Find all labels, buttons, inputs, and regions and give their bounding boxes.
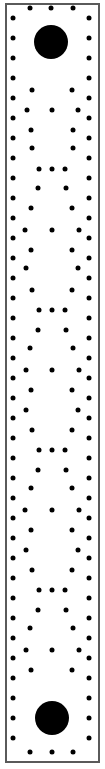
pellet: [50, 648, 55, 653]
pellet: [87, 416, 92, 421]
pellet: [11, 596, 16, 601]
pellet: [70, 428, 75, 433]
pellet: [87, 236, 92, 241]
pellet: [11, 696, 16, 701]
pellet: [29, 668, 34, 673]
power-pellet: [34, 25, 68, 59]
pellet: [71, 6, 76, 11]
pellet: [28, 346, 33, 351]
pellet: [77, 508, 82, 513]
pellet: [70, 248, 75, 253]
pellet: [87, 576, 92, 581]
pellet: [50, 750, 55, 755]
pellet: [87, 516, 92, 521]
pellet: [87, 536, 92, 541]
pellet: [87, 396, 92, 401]
pellet: [24, 408, 29, 413]
pellet: [11, 436, 16, 441]
pellet: [11, 676, 16, 681]
pellet: [28, 6, 33, 11]
pellet: [87, 56, 92, 61]
pellet: [37, 167, 42, 172]
pellet: [50, 368, 55, 373]
pellet: [28, 626, 33, 631]
pellet: [77, 228, 82, 233]
pellet: [11, 96, 16, 101]
pellet: [70, 388, 75, 393]
pellet: [76, 108, 81, 113]
pellet: [37, 308, 42, 313]
pellet: [87, 596, 92, 601]
pellet: [87, 176, 92, 181]
pellet: [30, 88, 35, 93]
pellet: [29, 128, 34, 133]
pellet: [76, 408, 81, 413]
pellet: [87, 616, 92, 621]
pellet: [87, 556, 92, 561]
pellet: [63, 167, 68, 172]
pellet: [28, 750, 33, 755]
pellet: [11, 56, 16, 61]
pellet: [11, 116, 16, 121]
pellet: [50, 508, 55, 513]
pellet: [11, 516, 16, 521]
pellet: [23, 228, 28, 233]
pellet: [11, 156, 16, 161]
pellet: [11, 196, 16, 201]
pellet: [11, 276, 16, 281]
pellet: [87, 716, 92, 721]
pellet: [30, 288, 35, 293]
pellet: [87, 216, 92, 221]
pellet: [70, 88, 75, 93]
pellet: [70, 486, 75, 491]
pellet: [11, 136, 16, 141]
pellet: [64, 608, 69, 613]
pellet: [11, 296, 16, 301]
pellet: [87, 356, 92, 361]
pellet: [63, 308, 68, 313]
pellet: [11, 76, 16, 81]
pellet: [87, 276, 92, 281]
pellet: [77, 648, 82, 653]
pellet: [11, 376, 16, 381]
pellet: [87, 476, 92, 481]
pellet: [29, 206, 34, 211]
pellet: [11, 36, 16, 41]
pellet: [87, 436, 92, 441]
pellet: [24, 548, 29, 553]
pellet: [11, 636, 16, 641]
pellet: [11, 716, 16, 721]
pellet: [11, 396, 16, 401]
pellet: [87, 76, 92, 81]
pellet: [87, 96, 92, 101]
pellet: [24, 266, 29, 271]
pellet: [11, 236, 16, 241]
pellet: [87, 36, 92, 41]
pellet: [50, 308, 55, 313]
pellet: [87, 736, 92, 741]
pellet: [11, 356, 16, 361]
pellet: [71, 128, 76, 133]
pellet: [87, 636, 92, 641]
pellet: [36, 468, 41, 473]
pellet: [87, 256, 92, 261]
pellet: [11, 256, 16, 261]
pellet: [70, 668, 75, 673]
pellet: [11, 736, 16, 741]
pellet: [70, 206, 75, 211]
pellet: [71, 346, 76, 351]
pellet: [63, 588, 68, 593]
pellet: [76, 548, 81, 553]
pellet: [25, 108, 30, 113]
pellet: [87, 376, 92, 381]
pellet: [24, 368, 29, 373]
pellet: [11, 16, 16, 21]
pellet: [87, 316, 92, 321]
pellet: [76, 266, 81, 271]
pellet: [87, 116, 92, 121]
pellet: [30, 568, 35, 573]
pellet: [50, 448, 55, 453]
pellet: [11, 556, 16, 561]
pellet: [30, 146, 35, 151]
pellet: [29, 528, 34, 533]
